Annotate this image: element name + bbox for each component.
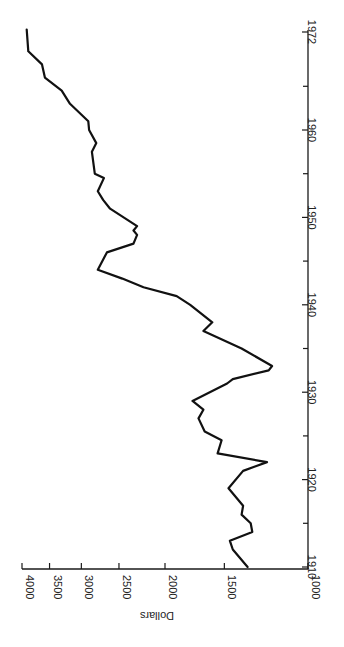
year-tick-label: 1920 (306, 467, 318, 491)
line-chart: 1000150020002500300035004000 19101920193… (0, 0, 344, 647)
year-tick-label: 1972 (306, 20, 318, 44)
dollars-tick-label: 4000 (24, 575, 36, 599)
dollars-tick-label: 2500 (121, 575, 133, 599)
year-tick-label: 1940 (306, 293, 318, 317)
year-tick-label: 1950 (306, 205, 318, 229)
year-tick-label: 1930 (306, 380, 318, 404)
dollars-tick-label: 2000 (167, 575, 179, 599)
dollars-series-line (27, 30, 272, 568)
year-tick-label: 1960 (306, 118, 318, 142)
dollars-tick-label: 3000 (83, 575, 95, 599)
year-tick-label: 1910 (306, 555, 318, 579)
dollars-tick-label: 1500 (226, 575, 238, 599)
dollars-tick-label: 3500 (52, 575, 64, 599)
dollars-axis-title: Dollars (139, 610, 174, 622)
year-axis-ticks: 1910192019301940195019601972 (302, 20, 318, 579)
